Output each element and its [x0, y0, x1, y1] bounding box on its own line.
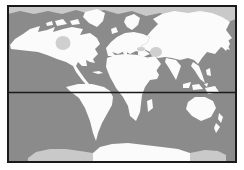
caspian-region-patch: [150, 47, 162, 57]
page-background: [0, 0, 244, 170]
black-sea-patch: [137, 47, 145, 51]
hudson-bay-patch: [56, 36, 71, 50]
world-map-figure: [0, 0, 244, 170]
world-map-svg: [0, 0, 244, 170]
